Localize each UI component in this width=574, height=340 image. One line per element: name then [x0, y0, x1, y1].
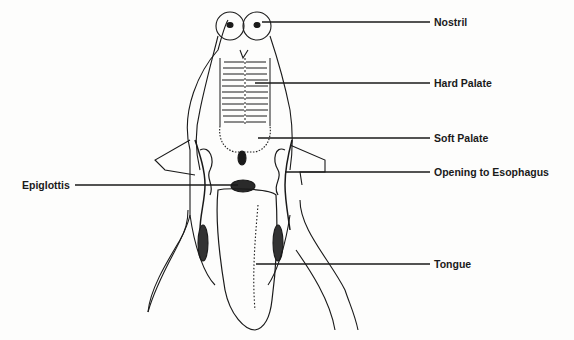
label-epiglottis: Epiglottis [22, 179, 70, 191]
label-opening-to-esophagus: Opening to Esophagus [434, 166, 549, 178]
label-tongue: Tongue [434, 258, 471, 270]
label-hard-palate: Hard Palate [434, 77, 492, 89]
anatomy-diagram: Nostril Hard Palate Soft Palate Opening … [0, 0, 574, 340]
label-soft-palate: Soft Palate [434, 132, 488, 144]
label-nostril: Nostril [434, 16, 467, 28]
